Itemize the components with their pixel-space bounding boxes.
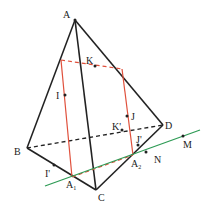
label-B: B bbox=[14, 146, 21, 157]
solid-edges bbox=[27, 20, 163, 190]
edge-AD bbox=[75, 20, 163, 125]
label-A: A bbox=[63, 9, 71, 20]
label-J: J bbox=[131, 111, 135, 122]
section-edge-left bbox=[61, 60, 72, 177]
label-D: D bbox=[165, 120, 172, 131]
label-J-prime: J' bbox=[136, 134, 142, 145]
label-N: N bbox=[154, 154, 161, 165]
points bbox=[53, 19, 185, 167]
label-K-prime: K' bbox=[112, 121, 121, 132]
label-I-prime: I' bbox=[45, 168, 50, 179]
point-I bbox=[64, 94, 67, 97]
point-I-prime bbox=[53, 164, 56, 167]
point-M bbox=[182, 135, 185, 138]
label-M: M bbox=[183, 139, 192, 150]
tetrahedron-diagram: A B C D K I J K' J' I' A1 A2 M N bbox=[0, 0, 212, 206]
section-edge-bottom bbox=[72, 155, 133, 177]
point-K bbox=[94, 65, 97, 68]
label-I: I bbox=[56, 90, 59, 101]
label-A1: A1 bbox=[66, 179, 76, 191]
point-A bbox=[74, 19, 77, 22]
point-J bbox=[126, 115, 129, 118]
point-N bbox=[145, 151, 148, 154]
edge-BC bbox=[27, 148, 96, 190]
label-C: C bbox=[98, 192, 105, 203]
edge-AC bbox=[75, 20, 96, 190]
label-K: K bbox=[86, 55, 94, 66]
label-A2: A2 bbox=[131, 158, 141, 170]
